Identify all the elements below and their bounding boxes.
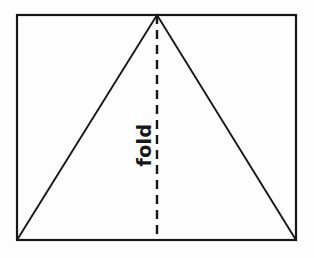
diagram-svg: fold <box>0 0 314 258</box>
figure-canvas: fold <box>0 0 314 258</box>
fold-label: fold <box>133 123 155 166</box>
